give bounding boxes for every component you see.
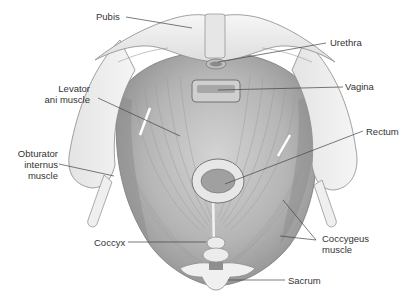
label-urethra: Urethra — [330, 37, 362, 48]
label-sacrum: Sacrum — [288, 275, 321, 286]
vagina — [192, 80, 240, 102]
rectum — [192, 159, 244, 203]
label-vagina: Vagina — [345, 81, 374, 92]
label-levator-ani-muscle: Levator ani muscle — [42, 83, 90, 105]
label-rectum: Rectum — [366, 126, 399, 137]
label-coccygeus-muscle: Coccygeus muscle — [322, 233, 369, 255]
label-pubis: Pubis — [96, 11, 120, 22]
label-obturator-internus-muscle: Obturator internus muscle — [8, 148, 58, 181]
urethra — [206, 59, 226, 69]
label-coccyx: Coccyx — [94, 237, 125, 248]
